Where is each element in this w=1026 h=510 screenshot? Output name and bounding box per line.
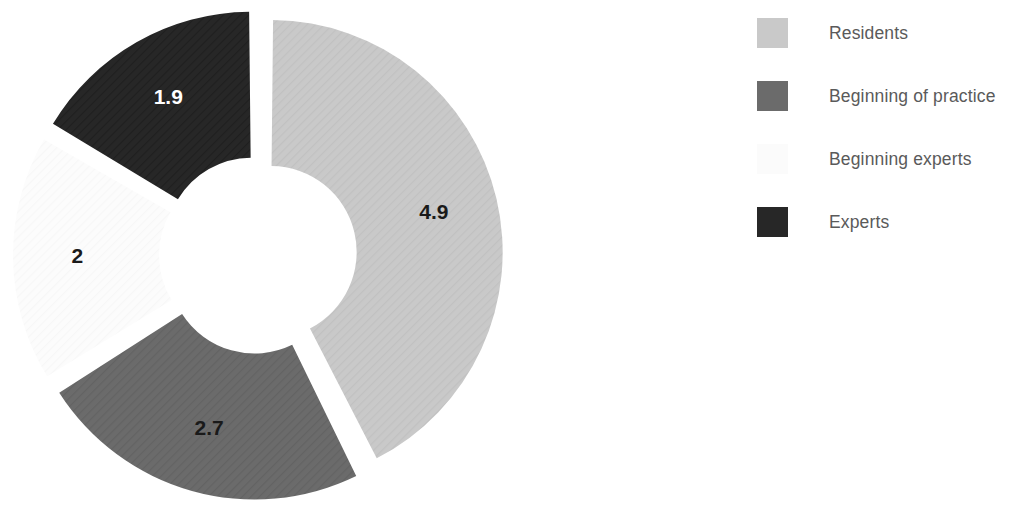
donut-slices xyxy=(13,12,503,500)
donut-slice[interactable] xyxy=(59,314,356,500)
donut-slice-value-label: 2 xyxy=(71,244,83,267)
donut-chart-svg: 4.92.721.9 xyxy=(0,0,520,510)
donut-chart: 4.92.721.9 xyxy=(0,0,520,510)
legend-item-beginning-experts[interactable]: Beginning experts xyxy=(757,144,1026,174)
donut-slice-value-label: 2.7 xyxy=(195,416,224,439)
legend-label-beginning-of-practice: Beginning of practice xyxy=(829,86,996,107)
legend-item-beginning-of-practice[interactable]: Beginning of practice xyxy=(757,81,1026,111)
chart-legend: Residents Beginning of practice Beginnin… xyxy=(757,18,1026,270)
legend-label-experts: Experts xyxy=(829,212,889,233)
legend-label-residents: Residents xyxy=(829,23,908,44)
donut-slice-value-label: 1.9 xyxy=(154,85,183,108)
legend-label-beginning-experts: Beginning experts xyxy=(829,149,972,170)
chart-figure: 4.92.721.9 Residents Beginning of practi… xyxy=(0,0,1026,510)
legend-swatch-beginning-experts xyxy=(757,144,788,174)
legend-swatch-beginning-of-practice xyxy=(757,81,788,111)
legend-item-experts[interactable]: Experts xyxy=(757,207,1026,237)
legend-item-residents[interactable]: Residents xyxy=(757,18,1026,48)
legend-swatch-experts xyxy=(757,207,788,237)
legend-swatch-residents xyxy=(757,18,788,48)
donut-slice-value-label: 4.9 xyxy=(419,200,448,223)
